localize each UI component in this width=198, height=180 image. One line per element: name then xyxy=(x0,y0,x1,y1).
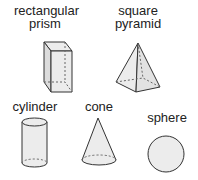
prism-front-face xyxy=(51,51,72,92)
pyramid-right-face xyxy=(136,43,160,92)
square-pyramid xyxy=(116,43,160,92)
sphere xyxy=(148,136,184,172)
cone xyxy=(82,118,116,165)
shapes-diagram xyxy=(0,0,198,180)
cone-body xyxy=(82,118,116,165)
pyramid-left-face xyxy=(116,43,138,92)
prism-side-face xyxy=(44,42,51,92)
cylinder-top xyxy=(22,118,47,126)
rectangular-prism xyxy=(44,42,72,92)
cylinder xyxy=(22,118,47,167)
